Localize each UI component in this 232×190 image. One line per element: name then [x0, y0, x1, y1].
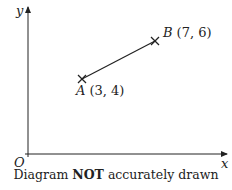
segment-ab [82, 41, 155, 79]
caption-text-bold: NOT [72, 167, 104, 182]
y-axis-label: y [15, 3, 24, 18]
caption-text-after: accurately drawn [104, 167, 219, 182]
point-a-label: A(3, 4) [75, 83, 124, 98]
point-b-marker [151, 37, 159, 45]
caption-text-before: Diagram [14, 167, 73, 182]
diagram-caption: Diagram NOT accurately drawn [0, 167, 232, 182]
point-a-marker [78, 75, 86, 83]
coordinate-diagram: y x O A(3, 4) B(7, 6) [0, 0, 232, 190]
point-b-label: B(7, 6) [162, 25, 212, 40]
